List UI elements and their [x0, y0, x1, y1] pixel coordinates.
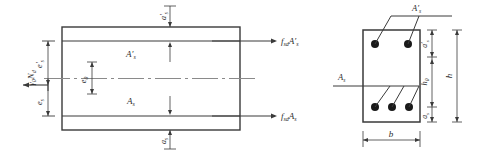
- cross-section-view: A′s As a′s: [333, 3, 462, 147]
- top-steel-label: A′s: [125, 49, 136, 60]
- axial-force-text: γ0Nd: [26, 69, 37, 86]
- bottom-cover-text: as: [159, 138, 169, 144]
- top-cover-text: a′s: [159, 12, 169, 20]
- e0-text: e0: [78, 76, 89, 83]
- section-top-steel-label: A′s: [411, 3, 421, 14]
- h-text: h: [444, 73, 454, 78]
- ecc-bottom-text: es: [34, 99, 45, 105]
- top-steel-pointer: [168, 42, 172, 62]
- section-bottom-steel-label: As: [337, 72, 345, 83]
- top-force-arrow: [212, 38, 277, 43]
- ecc-bottom-label: es: [34, 99, 45, 105]
- section-bottom-cover-text: as: [420, 113, 430, 119]
- axial-force-label: γ0Nd: [26, 69, 37, 86]
- bottom-steel-pointer: [168, 96, 172, 115]
- ecc-top-text: e′s: [34, 60, 45, 68]
- bottom-steel-label: As: [126, 96, 136, 107]
- bottom-force-label: fsdAs: [281, 111, 297, 122]
- b-label: b: [389, 129, 394, 139]
- section-bottom-cover-label: as: [420, 113, 430, 119]
- top-cover-label: a′s: [159, 12, 169, 20]
- bottom-force-arrow: [212, 113, 277, 118]
- e0-label: e0: [78, 76, 89, 83]
- bottom-cover-label: as: [159, 138, 169, 144]
- ecc-top-label: e′s: [34, 60, 45, 68]
- engineering-diagram: γ0Nd e′s es: [0, 0, 502, 155]
- figure-canvas: γ0Nd e′s es: [0, 0, 502, 155]
- top-force-label: fsdA′s: [281, 36, 299, 47]
- section-top-cover-text: a′s: [420, 40, 430, 47]
- h-label: h: [444, 73, 454, 78]
- section-top-cover-label: a′s: [420, 40, 430, 47]
- elevation-view: γ0Nd e′s es: [23, 6, 299, 149]
